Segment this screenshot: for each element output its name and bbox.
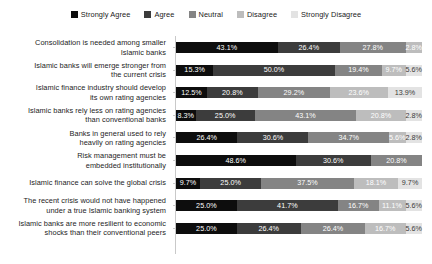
bar-segment[interactable]: 26.4% (176, 132, 237, 143)
legend-item-label: Strongly Disagree (301, 11, 361, 18)
bar-segment[interactable]: 18.1% (354, 178, 399, 189)
bar-segment[interactable]: 12.5% (176, 87, 207, 98)
category-label-line: embedded institutionally (0, 161, 166, 170)
bar-segment[interactable]: 25.0% (176, 200, 237, 211)
bar-segment[interactable]: 5.6% (406, 65, 422, 76)
bar-segment[interactable]: 9.7% (382, 65, 406, 76)
bar-segment-value: 41.7% (277, 202, 297, 209)
bar-segment[interactable]: 20.8% (371, 155, 422, 166)
bar-segment[interactable]: 43.1% (176, 42, 278, 53)
bar-segment[interactable]: 5.6% (389, 132, 405, 143)
category-label-line: Consolidation is needed among smaller (0, 38, 166, 47)
bar-segment[interactable]: 8.3% (176, 110, 196, 121)
legend-swatch-icon (144, 11, 151, 18)
stacked-bar[interactable]: 12.5%20.8%29.2%23.6%13.9% (176, 87, 422, 98)
stacked-bar[interactable]: 8.3%25.0%43.1%20.8%2.8% (176, 110, 422, 121)
stacked-bar[interactable]: 25.0%41.7%16.7%11.1%5.6% (176, 200, 422, 211)
bar-segment[interactable]: 37.5% (261, 178, 353, 189)
bar-segment-value: 9.7% (402, 179, 418, 186)
bar-segment-value: 8.3% (178, 112, 194, 119)
bar-segment[interactable]: 26.4% (278, 42, 340, 53)
bar-segment[interactable]: 25.0% (176, 223, 237, 234)
bar-segment-value: 5.6% (406, 225, 422, 232)
bar-segment[interactable]: 23.6% (330, 87, 388, 98)
bar-segment-value: 26.4% (299, 44, 319, 51)
bar-segment-value: 12.5% (181, 89, 201, 96)
bar-segment[interactable]: 11.1% (379, 200, 406, 211)
legend-item[interactable]: Strongly Disagree (291, 11, 361, 18)
bar-segment[interactable]: 20.8% (207, 87, 258, 98)
axis-tick (173, 47, 176, 48)
bar-segment-value: 20.8% (222, 89, 242, 96)
category-label: Islamic banks are more resilient to econ… (0, 219, 172, 237)
bar-segment[interactable]: 13.9% (388, 87, 422, 98)
bar-segment[interactable]: 25.0% (200, 178, 262, 189)
bar-segment[interactable]: 50.0% (213, 65, 335, 76)
stacked-bar-chart: Strongly AgreeAgreeNeutralDisagreeStrong… (0, 0, 432, 264)
legend-item[interactable]: Strongly Agree (71, 11, 131, 18)
axis-tick (173, 70, 176, 71)
bar-row: Islamic finance can solve the global cri… (0, 173, 432, 194)
category-label: Risk management must beembedded institut… (0, 151, 172, 169)
bar-segment-value: 13.9% (395, 89, 415, 96)
legend-item[interactable]: Disagree (237, 11, 277, 18)
bar-segment-value: 37.5% (297, 179, 317, 186)
stacked-bar[interactable]: 43.1%26.4%27.8%2.8% (176, 42, 422, 53)
bar-segment[interactable]: 30.6% (296, 155, 371, 166)
bar-row: Islamic banks will emerge stronger fromt… (0, 60, 432, 81)
legend-item[interactable]: Neutral (189, 11, 223, 18)
bar-segment[interactable]: 9.7% (176, 178, 200, 189)
stacked-bar[interactable]: 26.4%30.6%34.7%5.6%2.8% (176, 132, 422, 143)
bar-segment[interactable]: 2.8% (406, 110, 422, 121)
category-label: Banks in general used to relyheavily on … (0, 129, 172, 147)
bar-segment[interactable]: 27.8% (340, 42, 406, 53)
category-label-line: Islamic banks are more resilient to econ… (0, 219, 166, 228)
stacked-bar[interactable]: 48.6%30.6%20.8% (176, 155, 422, 166)
bar-segment[interactable]: 30.6% (237, 132, 308, 143)
bar-segment[interactable]: 16.7% (338, 200, 379, 211)
bar-segment[interactable]: 5.6% (406, 223, 422, 234)
bar-segment[interactable]: 25.0% (196, 110, 255, 121)
bar-segment[interactable]: 26.4% (237, 223, 301, 234)
category-label-line: Banks in general used to rely (0, 129, 166, 138)
stacked-bar[interactable]: 15.3%50.0%19.4%9.7%5.6% (176, 65, 422, 76)
bar-segment[interactable]: 43.1% (255, 110, 357, 121)
bar-segment[interactable]: 29.2% (258, 87, 330, 98)
category-label-line: than conventional banks (0, 115, 166, 124)
stacked-bar[interactable]: 9.7%25.0%37.5%18.1%9.7% (176, 178, 422, 189)
bar-segment[interactable]: 20.8% (356, 110, 405, 121)
bar-segment[interactable]: 2.8% (406, 132, 422, 143)
bar-segment-value: 19.4% (348, 66, 368, 73)
bar-segment-value: 26.4% (196, 134, 216, 141)
bar-segment[interactable]: 34.7% (308, 132, 389, 143)
bar-segment-value: 18.1% (366, 179, 386, 186)
bar-segment[interactable]: 9.7% (398, 178, 422, 189)
bar-segment-value: 25.0% (196, 202, 216, 209)
legend-item[interactable]: Agree (144, 11, 174, 18)
category-label: Consolidation is needed among smallerIsl… (0, 38, 172, 56)
category-label: Islamic banks will emerge stronger fromt… (0, 61, 172, 79)
bar-segment[interactable]: 19.4% (335, 65, 382, 76)
bar-segment-value: 25.0% (196, 225, 216, 232)
bar-segment-value: 26.4% (259, 225, 279, 232)
stacked-bar[interactable]: 25.0%26.4%26.4%16.7%5.6% (176, 223, 422, 234)
bar-segment-value: 15.3% (184, 66, 204, 73)
axis-tick (173, 160, 176, 161)
bar-segment[interactable]: 16.7% (365, 223, 406, 234)
category-label: Islamic banks rely less on rating agenci… (0, 106, 172, 124)
chart-legend: Strongly AgreeAgreeNeutralDisagreeStrong… (0, 11, 432, 18)
bar-segment[interactable]: 26.4% (301, 223, 365, 234)
bar-segment-value: 2.8% (406, 134, 422, 141)
bar-segment-value: 20.8% (371, 112, 391, 119)
category-label-line: Islamic finance can solve the global cri… (0, 178, 166, 187)
bar-segment[interactable]: 15.3% (176, 65, 213, 76)
bar-segment[interactable]: 2.8% (406, 42, 422, 53)
bar-segment-value: 43.1% (217, 44, 237, 51)
bar-segment[interactable]: 48.6% (176, 155, 296, 166)
axis-tick (173, 92, 176, 93)
bar-segment-value: 30.6% (323, 157, 343, 164)
category-label-line: under a true Islamic banking system (0, 206, 166, 215)
bar-segment[interactable]: 5.6% (406, 200, 422, 211)
legend-item-label: Strongly Agree (81, 11, 131, 18)
bar-segment[interactable]: 41.7% (237, 200, 338, 211)
